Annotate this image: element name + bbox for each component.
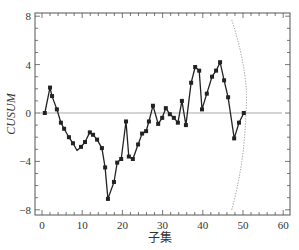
data-point-marker	[180, 99, 184, 103]
x-axis-title: 子集	[148, 230, 172, 245]
data-point-marker	[43, 111, 47, 115]
data-point-marker	[164, 106, 168, 110]
y-tick-label: 0	[26, 107, 32, 119]
data-point-marker	[91, 133, 95, 137]
data-point-marker	[200, 107, 204, 111]
data-point-marker	[83, 140, 87, 144]
x-tick-label: 10	[77, 219, 89, 231]
data-point-marker	[222, 78, 226, 82]
data-point-marker	[197, 69, 201, 73]
data-point-marker	[50, 94, 54, 98]
data-point-marker	[119, 157, 123, 161]
cusum-chart: 0102030405060−8−4048 子集 CUSUM	[0, 0, 299, 250]
data-point-marker	[176, 121, 180, 125]
data-point-marker	[103, 165, 107, 169]
data-point-marker	[106, 197, 110, 201]
data-point-marker	[95, 138, 99, 142]
data-point-marker	[140, 132, 144, 136]
data-point-marker	[172, 116, 176, 120]
plot-frame	[35, 13, 290, 215]
data-point-marker	[144, 129, 148, 133]
data-point-marker	[136, 142, 140, 146]
x-tick-label: 20	[117, 219, 129, 231]
y-axis-title: CUSUM	[4, 92, 18, 134]
data-point-marker	[168, 112, 172, 116]
data-point-marker	[100, 146, 104, 150]
data-point-marker	[189, 81, 193, 85]
data-point-marker	[156, 122, 160, 126]
data-point-marker	[124, 119, 128, 123]
data-point-marker	[242, 111, 246, 115]
data-point-marker	[151, 104, 155, 108]
data-point-marker	[226, 95, 230, 99]
data-point-marker	[67, 135, 71, 139]
data-point-marker	[193, 65, 197, 69]
data-point-marker	[205, 92, 209, 96]
data-point-marker	[55, 107, 59, 111]
data-point-marker	[147, 119, 151, 123]
x-tick-label: 0	[39, 219, 45, 231]
data-point-marker	[210, 75, 214, 79]
data-point-marker	[218, 60, 222, 64]
data-point-marker	[115, 161, 119, 165]
x-tick-label: 50	[238, 219, 250, 231]
y-tick-label: −4	[19, 155, 31, 167]
data-point-marker	[127, 155, 131, 159]
cusum-series-markers	[43, 60, 246, 201]
axis-ticks	[35, 13, 290, 215]
data-point-marker	[112, 180, 116, 184]
data-point-marker	[237, 121, 241, 125]
data-point-marker	[184, 123, 188, 127]
x-tick-label: 40	[197, 219, 209, 231]
data-point-marker	[232, 136, 236, 140]
data-point-marker	[79, 145, 83, 149]
data-point-marker	[160, 116, 164, 120]
data-point-marker	[214, 69, 218, 73]
data-point-marker	[131, 157, 135, 161]
data-point-marker	[59, 121, 63, 125]
x-tick-label: 30	[157, 219, 169, 231]
data-point-marker	[62, 127, 66, 131]
data-point-marker	[48, 86, 52, 90]
y-tick-label: 4	[26, 59, 32, 71]
y-tick-label: −8	[19, 204, 31, 216]
data-point-marker	[71, 141, 75, 145]
y-tick-label: 8	[26, 10, 32, 22]
x-tick-label: 60	[278, 219, 290, 231]
